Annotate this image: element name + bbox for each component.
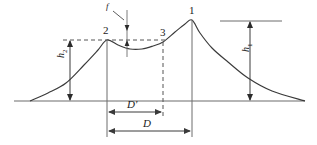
h2-symbol: h — [55, 53, 66, 58]
d-label: D — [143, 117, 151, 129]
h1-arrowhead-bottom — [247, 94, 253, 101]
h2-arrowhead-bottom — [67, 94, 73, 101]
h2-arrowhead-top — [67, 40, 73, 47]
sag-arrowhead-down — [125, 25, 130, 31]
h2-subscript: 2 — [61, 50, 69, 54]
diagram-svg — [0, 0, 317, 145]
point-label-3: 3 — [160, 26, 166, 38]
point-label-1: 1 — [189, 4, 195, 16]
dprime-label: D' — [127, 98, 137, 110]
h1-arrowhead-top — [247, 21, 253, 28]
h1-subscript: 1 — [246, 44, 254, 48]
h1-label: h1 — [240, 44, 254, 53]
diagram-canvas: 2 3 1 h2 h1 D' D f — [0, 0, 317, 145]
point-label-2: 2 — [103, 24, 109, 36]
h2-label: h2 — [55, 50, 69, 59]
sag-leader-line — [113, 11, 124, 20]
sag-arrowhead-up — [125, 40, 130, 46]
h1-symbol: h — [240, 47, 251, 52]
profile-curve — [30, 20, 305, 101]
sag-label-f: f — [106, 1, 109, 11]
